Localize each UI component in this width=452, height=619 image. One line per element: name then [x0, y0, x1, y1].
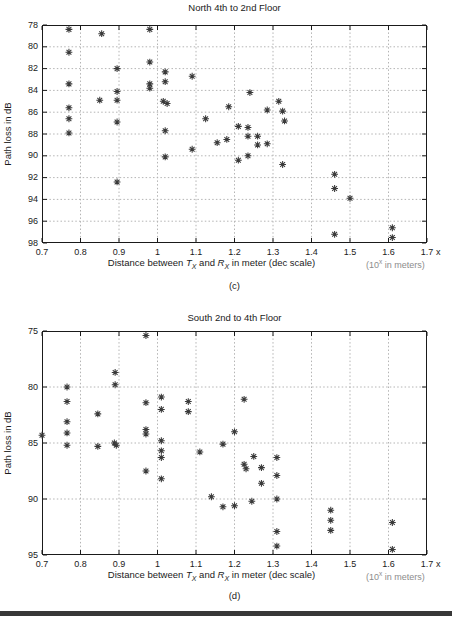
data-point-marker	[114, 97, 121, 104]
data-point-marker	[231, 502, 238, 509]
y-tick-label: 90	[6, 494, 38, 505]
data-point-marker	[258, 480, 265, 487]
data-point-marker	[327, 517, 334, 524]
x-tick-label: 1	[143, 559, 173, 570]
data-point-marker	[264, 107, 271, 114]
data-point-marker	[248, 498, 255, 505]
scatter-plot-north: North 4th to 2nd Floor Path loss in dB x…	[0, 0, 452, 619]
x-tick-label: 1.1	[181, 247, 211, 258]
data-point-marker	[273, 528, 280, 535]
x-tick-label: 1.4	[297, 559, 327, 570]
data-point-marker	[66, 80, 73, 87]
data-point-marker	[214, 139, 221, 146]
data-point-marker	[66, 130, 73, 137]
data-point-marker	[94, 410, 101, 417]
data-point-marker	[96, 97, 103, 104]
x-tick-label: 1.7	[412, 559, 442, 570]
data-point-marker	[243, 465, 250, 472]
data-point-marker	[389, 519, 396, 526]
data-point-marker	[254, 142, 261, 149]
data-point-marker	[273, 496, 280, 503]
x-axis-label: Distance between TX and RX in meter (dec…	[42, 569, 427, 582]
data-point-marker	[275, 98, 282, 105]
data-point-marker	[66, 49, 73, 56]
data-point-marker	[231, 428, 238, 435]
data-point-marker	[158, 406, 165, 413]
y-tick-label: 92	[6, 172, 38, 183]
rx-symbol: R	[218, 257, 225, 268]
data-point-marker	[112, 369, 119, 376]
data-point-marker	[114, 179, 121, 186]
x-axis-variable: x	[436, 247, 441, 257]
data-point-marker	[114, 65, 121, 72]
data-point-marker	[98, 30, 105, 37]
y-tick-label: 84	[6, 85, 38, 96]
data-point-marker	[113, 442, 120, 449]
x-tick-label: 1.4	[297, 247, 327, 258]
data-point-marker	[64, 430, 71, 437]
page-divider-rule	[0, 611, 452, 616]
data-point-marker	[112, 381, 119, 388]
data-point-marker	[162, 68, 169, 75]
data-point-marker	[250, 453, 257, 460]
data-point-marker	[64, 398, 71, 405]
axis-box	[43, 332, 427, 555]
data-point-marker	[208, 493, 215, 500]
data-point-marker	[143, 468, 150, 475]
data-point-marker	[64, 418, 71, 425]
tx-symbol: T	[186, 569, 192, 580]
y-tick-label: 96	[6, 216, 38, 227]
data-point-marker	[223, 136, 230, 143]
x-axis-label: Distance between TX and RX in meter (dec…	[42, 257, 427, 270]
x-tick-label: 1.1	[181, 559, 211, 570]
data-point-marker	[143, 426, 150, 433]
unit-note-exponent: x	[379, 570, 382, 577]
unit-note-exponent: x	[379, 258, 382, 265]
data-point-marker	[235, 157, 242, 164]
data-point-marker	[241, 461, 248, 468]
x-axis-label-text: and	[196, 257, 217, 268]
data-point-marker	[158, 454, 165, 461]
y-tick-label: 80	[6, 41, 38, 52]
y-axis-label: Path loss in dB	[2, 383, 14, 503]
data-point-marker	[94, 443, 101, 450]
rx-subscript: X	[224, 263, 229, 270]
data-point-marker	[160, 98, 167, 105]
unit-note-text: in meters)	[382, 572, 425, 582]
unit-note-text: (10	[366, 260, 379, 270]
x-tick-label: 1.6	[374, 247, 404, 258]
tx-subscript: X	[192, 263, 197, 270]
data-point-marker	[273, 472, 280, 479]
data-point-marker	[273, 543, 280, 550]
data-point-marker	[143, 431, 150, 438]
data-point-marker	[146, 26, 153, 33]
x-tick-label: 1.6	[374, 559, 404, 570]
subfigure-caption: (d)	[42, 590, 427, 601]
rx-subscript: X	[224, 575, 229, 582]
x-tick-label: 0.8	[66, 247, 96, 258]
data-point-marker	[281, 118, 288, 125]
y-tick-label: 82	[6, 63, 38, 74]
data-point-marker	[327, 507, 334, 514]
x-axis-label-text: Distance between	[108, 569, 186, 580]
data-point-marker	[114, 88, 121, 95]
data-point-marker	[241, 396, 248, 403]
x-axis-label-text: in meter (dec scale)	[229, 569, 315, 580]
data-point-marker	[389, 546, 396, 553]
data-point-marker	[39, 432, 46, 439]
y-tick-label: 94	[6, 194, 38, 205]
data-point-marker	[66, 26, 73, 33]
data-point-marker	[185, 398, 192, 405]
data-point-marker	[146, 80, 153, 87]
x-tick-label: 0.7	[27, 559, 57, 570]
data-point-marker	[331, 171, 338, 178]
y-tick-label: 90	[6, 150, 38, 161]
data-point-marker	[258, 464, 265, 471]
axis-box	[43, 26, 427, 243]
page: { "page": { "background": "#ffffff", "bo…	[0, 0, 452, 619]
data-point-marker	[162, 153, 169, 160]
data-point-marker	[158, 394, 165, 401]
data-point-marker	[143, 399, 150, 406]
data-point-marker	[162, 127, 169, 134]
data-point-marker	[162, 78, 169, 85]
